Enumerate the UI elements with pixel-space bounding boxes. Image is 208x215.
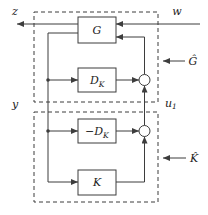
sum-junction-lower: [139, 126, 150, 137]
signal-label-u1: u1: [165, 97, 177, 111]
branch-dot-upper: [46, 78, 50, 82]
wire-sum-to-g: [116, 37, 145, 75]
g-block-label: G: [93, 24, 102, 37]
system-label-k-hat: K̂: [189, 152, 199, 165]
wire-y-feedback: [48, 33, 78, 182]
signal-label-y: y: [11, 98, 19, 111]
diagram-svg: G DK −DK K z w y u1 Ĝ K̂: [0, 0, 208, 215]
signal-label-z: z: [11, 5, 18, 18]
k-block-label: K: [92, 176, 102, 189]
wire-k-to-sum: [116, 137, 145, 183]
block-diagram: G DK −DK K z w y u1 Ĝ K̂: [0, 0, 208, 215]
branch-dot-lower: [46, 129, 50, 133]
signal-label-w: w: [172, 5, 182, 18]
system-label-g-hat: Ĝ: [189, 54, 198, 68]
sum-junction-upper: [139, 75, 150, 86]
